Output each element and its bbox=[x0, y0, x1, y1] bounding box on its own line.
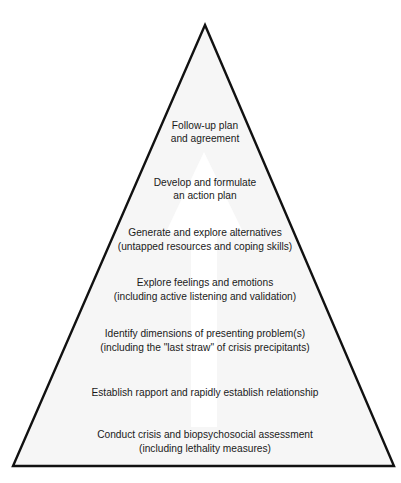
stage-line: (including the "last straw" of crisis pr… bbox=[100, 342, 309, 353]
stage-line: Explore feelings and emotions bbox=[137, 277, 273, 288]
stage-line: Develop and formulate bbox=[154, 177, 257, 188]
stage-line: (including active listening and validati… bbox=[114, 291, 296, 302]
stage-line: (untapped resources and coping skills) bbox=[118, 241, 292, 252]
stage-line: an action plan bbox=[173, 190, 236, 201]
stage-line: Establish rapport and rapidly establish … bbox=[91, 387, 318, 398]
stage-line: Generate and explore alternatives bbox=[128, 227, 281, 238]
stage-rapport: Establish rapport and rapidly establish … bbox=[91, 387, 318, 398]
stage-line: (including lethality measures) bbox=[139, 443, 271, 454]
crisis-intervention-pyramid: Follow-up plan and agreement Develop and… bbox=[0, 0, 401, 483]
stage-line: and agreement bbox=[171, 133, 240, 144]
stage-line: Conduct crisis and biopsychosocial asses… bbox=[97, 429, 313, 440]
stage-line: Follow-up plan bbox=[172, 120, 238, 131]
stage-line: Identify dimensions of presenting proble… bbox=[105, 328, 305, 339]
